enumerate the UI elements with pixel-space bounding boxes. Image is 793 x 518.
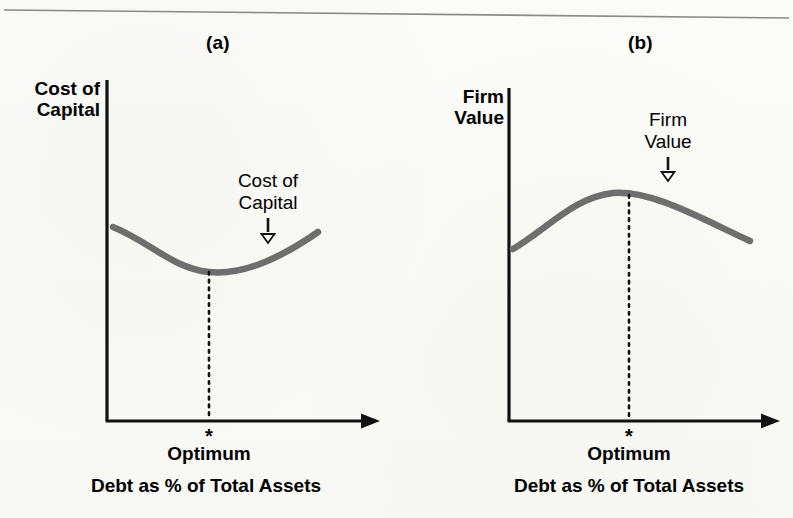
panel-b-x-axis-label: Debt as % of Total Assets	[449, 475, 793, 497]
panel-b-y-axis-title: Firm Value	[404, 86, 504, 129]
panel-a-optimum-label: Optimum	[144, 443, 274, 465]
panel-a-y-axis-title-line1: Cost of	[0, 78, 100, 99]
panel-a-x-axis-arrowhead	[361, 414, 380, 429]
panel-b-curve-annotation-line1: Firm	[613, 109, 723, 131]
panel-b-curve-annotation-line2: Value	[613, 131, 723, 153]
panel-a-annotation-pointer-arrowhead	[262, 234, 275, 243]
figure-root: (a) Cost of Capital Cost of Capital * Op…	[0, 0, 793, 518]
panel-a-cost-of-capital-curve	[113, 227, 318, 272]
panel-a-y-axis-title-line2: Capital	[0, 99, 100, 120]
panel-b-y-axis-title-line1: Firm	[404, 86, 504, 107]
panel-a-caption: (a)	[206, 32, 230, 54]
panel-a-curve-annotation: Cost of Capital	[208, 170, 328, 214]
panel-a-curve-annotation-line2: Capital	[208, 192, 328, 214]
panel-a-curve-annotation-line1: Cost of	[208, 170, 328, 192]
panel-b-annotation-pointer-arrowhead	[662, 172, 675, 181]
panel-b-optimum-label: Optimum	[564, 443, 694, 465]
panel-b-caption: (b)	[628, 32, 653, 54]
panel-a-plot	[106, 80, 380, 429]
panel-b-curve-annotation: Firm Value	[613, 109, 723, 153]
panel-b-x-axis-arrowhead	[761, 414, 780, 429]
panel-a-y-axis-title: Cost of Capital	[0, 78, 100, 121]
panel-b-y-axis-title-line2: Value	[404, 107, 504, 128]
panel-a-x-axis-label: Debt as % of Total Assets	[26, 475, 386, 497]
scan-page-rule	[4, 10, 789, 18]
panel-b-firm-value-curve	[513, 193, 750, 249]
figure-drawing-canvas	[0, 0, 793, 518]
